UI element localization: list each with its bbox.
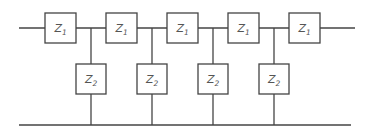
series-impedance-z1: Z1 xyxy=(228,13,259,43)
shunt-impedance-z2: Z2 xyxy=(259,28,289,125)
shunt-impedance-z2: Z2 xyxy=(198,28,228,125)
series-impedance-z1: Z1 xyxy=(289,13,320,43)
circuit-svg: Z2Z2Z2Z2 Z1Z1Z1Z1Z1 xyxy=(0,0,370,133)
shunt-impedance-z2: Z2 xyxy=(76,28,106,125)
ladder-network-diagram: Z2Z2Z2Z2 Z1Z1Z1Z1Z1 xyxy=(0,0,370,133)
series-impedance-z1: Z1 xyxy=(106,13,137,43)
shunt-impedance-z2: Z2 xyxy=(137,28,167,125)
series-impedance-z1: Z1 xyxy=(167,13,198,43)
series-impedance-z1: Z1 xyxy=(45,13,76,43)
